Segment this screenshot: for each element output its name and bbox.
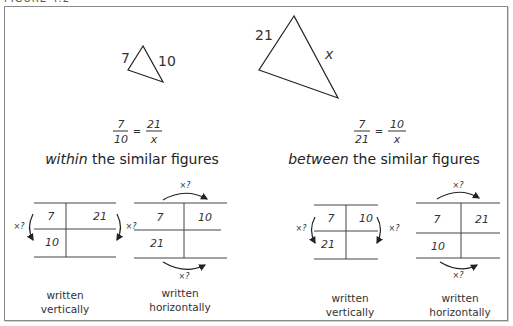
within-left-numerator: 7 bbox=[118, 118, 125, 131]
between-heading: between the similar figures bbox=[288, 151, 480, 167]
large-triangle-side-a: 21 bbox=[255, 27, 273, 43]
within-heading-rest: the similar figures bbox=[88, 151, 219, 167]
within-vertical-bottom-left: 10 bbox=[45, 236, 59, 249]
between-equals: = bbox=[375, 126, 383, 137]
label-line2: horizontally bbox=[429, 305, 491, 319]
between-horizontal-arrow-top-label: ×? bbox=[453, 181, 464, 190]
between-heading-emphasis: between bbox=[288, 151, 349, 167]
within-horizontal-arrow-top-label: ×? bbox=[180, 181, 191, 190]
between-horizontal-top-right: 21 bbox=[475, 213, 489, 226]
within-right-denominator: x bbox=[151, 133, 158, 146]
between-vertical-label: writtenvertically bbox=[326, 291, 374, 319]
within-vertical-arrow-right-label: ×? bbox=[126, 222, 137, 231]
within-horizontal-arrow-bottom-label: ×? bbox=[179, 272, 190, 281]
between-vertical-arrow-left-label: ×? bbox=[296, 224, 307, 233]
between-right-numerator: 10 bbox=[390, 118, 404, 131]
within-vertical-label: writtenvertically bbox=[41, 288, 89, 316]
within-equals: = bbox=[133, 126, 141, 137]
label-line2: horizontally bbox=[149, 300, 211, 314]
between-vertical-bottom-left: 21 bbox=[321, 238, 335, 251]
between-horizontal-arrow-bottom-label: ×? bbox=[453, 271, 464, 280]
large-triangle-side-b: x bbox=[325, 46, 333, 62]
between-left-numerator: 7 bbox=[359, 118, 366, 131]
label-line2: vertically bbox=[326, 305, 374, 319]
within-vertical-top-left: 7 bbox=[48, 210, 55, 223]
within-horizontal-grid bbox=[134, 203, 227, 258]
between-left-denominator: 21 bbox=[355, 133, 369, 146]
within-left-denominator: 10 bbox=[114, 133, 128, 146]
label-line1: written bbox=[429, 291, 491, 305]
within-right-numerator: 21 bbox=[147, 118, 161, 131]
between-heading-rest: the similar figures bbox=[349, 151, 480, 167]
small-triangle-side-b: 10 bbox=[158, 53, 176, 69]
between-vertical-top-right: 10 bbox=[359, 212, 373, 225]
within-heading-emphasis: within bbox=[45, 151, 87, 167]
between-horizontal-top-left: 7 bbox=[434, 213, 441, 226]
between-horizontal-label: writtenhorizontally bbox=[429, 291, 491, 319]
between-vertical-arrow-right-label: ×? bbox=[389, 224, 400, 233]
within-horizontal-label: writtenhorizontally bbox=[149, 286, 211, 314]
within-vertical-arrow-left-label: ×? bbox=[14, 222, 25, 231]
label-line1: written bbox=[41, 288, 89, 302]
within-heading: within the similar figures bbox=[45, 151, 219, 167]
between-right-denominator: x bbox=[394, 133, 401, 146]
within-horizontal-bottom-left: 21 bbox=[150, 237, 164, 250]
within-horizontal-top-left: 7 bbox=[157, 211, 164, 224]
small-triangle-side-a: 7 bbox=[121, 50, 130, 66]
between-horizontal-grid bbox=[416, 203, 500, 258]
label-line2: vertically bbox=[41, 302, 89, 316]
between-horizontal-bottom-left: 10 bbox=[431, 240, 445, 253]
within-vertical-top-right: 21 bbox=[93, 210, 107, 223]
within-horizontal-top-right: 10 bbox=[198, 211, 212, 224]
label-line1: written bbox=[149, 286, 211, 300]
between-vertical-top-left: 7 bbox=[328, 212, 335, 225]
label-line1: written bbox=[326, 291, 374, 305]
